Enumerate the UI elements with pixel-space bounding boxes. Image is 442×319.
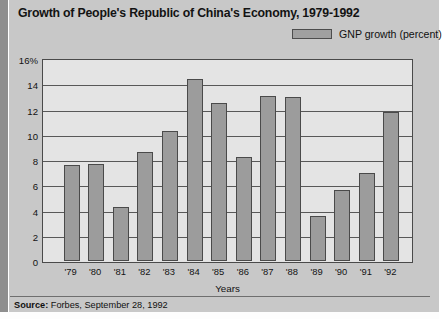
legend-swatch-icon: [292, 29, 332, 39]
x-axis-tick-labels: '79'80'81'82'83'84'85'86'87'88'89'90'91'…: [43, 266, 412, 280]
y-axis-tick-label: 0: [4, 257, 38, 268]
x-axis-tick-label: '79: [58, 266, 84, 277]
x-axis-tick-label: '86: [230, 266, 256, 277]
bar-series: [44, 61, 411, 261]
bar: [187, 79, 203, 261]
y-axis-tick-label: 10: [4, 130, 38, 141]
bar: [359, 173, 375, 261]
x-axis-tick-label: '88: [279, 266, 305, 277]
source-label: Source:: [14, 300, 48, 310]
bar: [334, 190, 350, 261]
bar: [260, 96, 276, 261]
bar: [137, 152, 153, 261]
figure-bottom-margin: [0, 312, 439, 319]
source-text: Forbes, September 28, 1992: [48, 300, 168, 310]
x-axis-tick-label: '92: [377, 266, 403, 277]
bar: [162, 131, 178, 261]
bar: [285, 97, 301, 261]
x-axis-tick-label: '91: [353, 266, 379, 277]
chart-title: Growth of People's Republic of China's E…: [18, 6, 428, 20]
plot-area: [42, 59, 413, 263]
footer-divider: [10, 296, 430, 297]
bar: [383, 112, 399, 261]
x-axis-tick-label: '83: [156, 266, 182, 277]
y-axis-tick-label: 16%: [4, 55, 38, 66]
y-axis-tick-label: 8: [4, 156, 38, 167]
x-axis-tick-label: '87: [254, 266, 280, 277]
bar: [310, 216, 326, 261]
bar: [113, 207, 129, 261]
x-axis-tick-label: '85: [205, 266, 231, 277]
y-axis-tick-label: 2: [4, 231, 38, 242]
x-axis-tick-label: '81: [107, 266, 133, 277]
y-axis-tick-label: 12: [4, 105, 38, 116]
x-axis-title: Years: [42, 283, 413, 294]
x-axis-tick-label: '82: [131, 266, 157, 277]
bar: [88, 164, 104, 261]
bar: [236, 157, 252, 261]
bar: [64, 165, 80, 261]
x-axis-tick-label: '90: [328, 266, 354, 277]
x-axis-tick-label: '80: [82, 266, 108, 277]
bar: [211, 103, 227, 261]
x-axis-tick-label: '84: [181, 266, 207, 277]
source-note: Source: Forbes, September 28, 1992: [14, 300, 168, 310]
x-axis-tick-label: '89: [304, 266, 330, 277]
y-axis-tick-label: 6: [4, 181, 38, 192]
y-axis-tick-labels: 0246810121416%: [0, 59, 38, 263]
y-axis-tick-label: 14: [4, 80, 38, 91]
plot-wrapper: [42, 59, 413, 263]
legend-entry-label: GNP growth (percent): [339, 28, 442, 40]
y-axis-tick-label: 4: [4, 206, 38, 217]
chart-legend: GNP growth (percent): [292, 28, 442, 40]
